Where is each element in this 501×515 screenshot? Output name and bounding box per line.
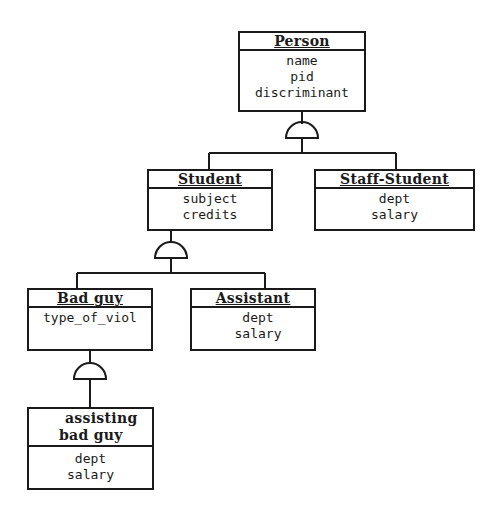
generalization-symbol-icon [286, 122, 318, 138]
attribute: dept [202, 310, 314, 326]
attribute-list: dept salary [316, 189, 473, 223]
class-name: Assistant [192, 290, 314, 308]
attribute-list: subject credits [149, 189, 271, 223]
generalization-symbol-icon [155, 242, 187, 258]
class-assisting-bad-guy: assisting bad guy dept salary [27, 407, 154, 490]
attribute-list: name pid discriminant [240, 51, 364, 101]
attribute: name [240, 53, 364, 69]
class-name: Bad guy [29, 290, 151, 308]
class-staff-student: Staff-Student dept salary [314, 169, 475, 231]
attribute: subject [149, 191, 271, 207]
attribute-list: dept salary [29, 447, 152, 483]
class-name-line: assisting [59, 410, 152, 427]
attribute: discriminant [240, 85, 364, 101]
class-name: Student [149, 171, 271, 189]
attribute: credits [149, 207, 271, 223]
class-person: Person name pid discriminant [238, 31, 366, 112]
attribute: salary [29, 467, 152, 483]
attribute: salary [202, 326, 314, 342]
attribute: salary [316, 207, 473, 223]
generalization-symbol-icon [74, 363, 106, 379]
class-bad-guy: Bad guy type_of_viol [27, 288, 153, 351]
attribute: type_of_viol [29, 310, 151, 326]
class-assistant: Assistant dept salary [190, 288, 316, 351]
class-name: assisting bad guy [29, 409, 152, 447]
attribute: pid [240, 69, 364, 85]
class-name: Person [240, 33, 364, 51]
class-name: Staff-Student [316, 171, 473, 189]
class-name-line: bad guy [59, 427, 152, 444]
attribute-list: dept salary [192, 308, 314, 342]
attribute: dept [316, 191, 473, 207]
attribute: dept [29, 451, 152, 467]
attribute-list: type_of_viol [29, 308, 151, 326]
class-student: Student subject credits [147, 169, 273, 231]
